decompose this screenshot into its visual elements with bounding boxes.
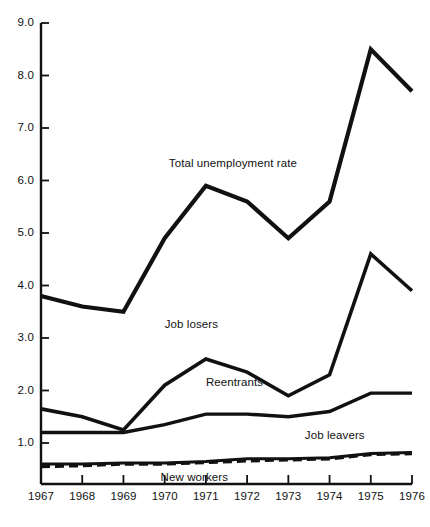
y-axis-tick-label: 6.0 (0, 174, 34, 186)
x-axis-tick-label: 1969 (103, 490, 143, 502)
series-label-reentrants: Reentrants (206, 376, 263, 388)
chart-series-lines (41, 49, 412, 466)
y-axis-tick-label: 2.0 (0, 384, 34, 396)
y-axis-tick-label: 1.0 (0, 436, 34, 448)
x-axis-tick-label: 1976 (392, 490, 430, 502)
y-axis-tick-label: 4.0 (0, 279, 34, 291)
x-axis-tick-label: 1971 (186, 490, 226, 502)
unemployment-rate-chart: 1.02.03.04.05.06.07.08.09.0 196719681969… (0, 0, 430, 527)
chart-plot-area (0, 0, 430, 527)
y-axis-tick-label: 3.0 (0, 331, 34, 343)
series-line-job-losers (41, 254, 412, 430)
series-line-total-unemployment-rate (41, 49, 412, 312)
y-axis-tick-label: 7.0 (0, 121, 34, 133)
series-label-total-unemployment-rate: Total unemployment rate (169, 157, 297, 169)
x-axis-tick-label: 1967 (21, 490, 61, 502)
x-axis-tick-label: 1970 (145, 490, 185, 502)
series-line-reentrants (41, 393, 412, 432)
x-axis-tick-label: 1975 (351, 490, 391, 502)
x-axis-tick-label: 1972 (227, 490, 267, 502)
y-axis-tick-label: 9.0 (0, 16, 34, 28)
x-axis-tick-label: 1968 (62, 490, 102, 502)
series-label-job-leavers: Job leavers (305, 429, 365, 441)
y-axis-tick-label: 5.0 (0, 226, 34, 238)
x-axis-tick-label: 1973 (268, 490, 308, 502)
y-axis-tick-label: 8.0 (0, 69, 34, 81)
x-axis-tick-label: 1974 (310, 490, 350, 502)
series-label-job-losers: Job losers (165, 318, 218, 330)
series-label-new-workers: New workers (161, 471, 229, 483)
